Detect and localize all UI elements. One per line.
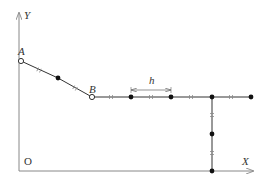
- node-a-open: [18, 58, 23, 63]
- node-solid: [169, 95, 174, 100]
- node-solid: [129, 95, 134, 100]
- node-solid: [249, 95, 254, 100]
- point-label-b: B: [89, 83, 96, 95]
- dimension-h: h: [131, 74, 171, 93]
- x-axis-label: X: [241, 155, 250, 167]
- node-solid: [56, 76, 61, 81]
- origin-label: O: [24, 155, 32, 167]
- point-label-a: A: [17, 45, 25, 57]
- piecewise-path-diagram: Y X O: [0, 0, 266, 181]
- node-solid: [210, 132, 215, 137]
- segment-ticks: [37, 68, 233, 155]
- segment-a-to-mid: [21, 61, 58, 78]
- node-solid-junction: [210, 95, 215, 100]
- node-b-open: [89, 94, 94, 99]
- node-solid-on-x-axis: [210, 169, 215, 174]
- dimension-label-h: h: [149, 74, 155, 86]
- segment-mid-to-b: [58, 78, 92, 97]
- path-segments: [21, 61, 251, 171]
- y-axis-label: Y: [24, 9, 32, 21]
